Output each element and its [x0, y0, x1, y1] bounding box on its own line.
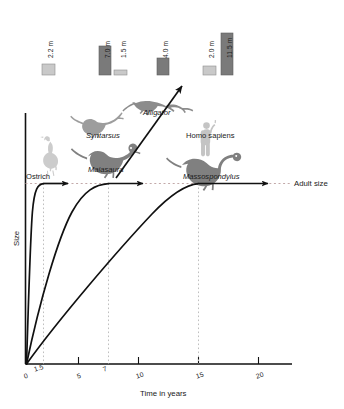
- caption-massospondylus: Massospondylus: [183, 172, 240, 181]
- x-tick-marks: [79, 357, 259, 364]
- arrow-alligator-indeterminate: [116, 86, 182, 178]
- silhouette-ostrich: [40, 136, 58, 176]
- size-bar-label-ostrich: 2.2 m: [47, 41, 54, 58]
- growth-curves: [27, 184, 199, 364]
- size-bar-label-homo-sapiens: 2.0 m: [208, 41, 215, 58]
- caption-ostrich: Ostrich: [26, 172, 50, 181]
- size-bar-alligator: [157, 58, 169, 75]
- curve-maiasaura: [27, 184, 109, 364]
- figure-canvas: [0, 0, 344, 409]
- caption-homo-sapiens: Homo sapiens: [186, 131, 235, 140]
- size-bar-label-maiasaura: 7.0 m: [104, 41, 111, 58]
- adult-size-label: Adult size: [294, 179, 328, 188]
- axes: [26, 113, 293, 364]
- vertical-guides: [44, 184, 199, 365]
- size-bar-syntarsus: [114, 70, 127, 75]
- size-bar-label-massospondylus: 11.5 m: [226, 38, 233, 58]
- curve-ostrich: [27, 184, 44, 364]
- caption-maiasaura: Maiasaura: [88, 165, 123, 174]
- x-axis-title: Time in years: [140, 389, 187, 398]
- size-bar-homo-sapiens: [203, 66, 216, 75]
- size-bar-ostrich: [42, 64, 55, 75]
- y-axis-title: Size: [12, 231, 21, 246]
- curve-massospondylus: [27, 184, 199, 364]
- size-bar-label-alligator: 4.0 m: [162, 41, 169, 58]
- growth-curve-figure: 2.2 m 7.0 m 1.5 m 4.0 m 2.0 m 11.5 m Ost…: [0, 0, 344, 409]
- size-bar-label-syntarsus: 1.5 m: [120, 41, 127, 58]
- caption-syntarsus: Syntarsus: [86, 131, 120, 140]
- caption-alligator: Alligator: [143, 108, 170, 117]
- size-bar-group: [42, 33, 233, 75]
